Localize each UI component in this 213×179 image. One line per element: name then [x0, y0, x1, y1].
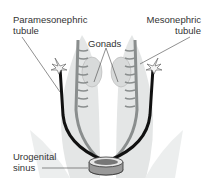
right-fimbriae — [146, 58, 162, 74]
mesonephric-tubule-label: Mesonephric tubule — [147, 14, 201, 36]
gonads-label: Gonads — [88, 38, 121, 49]
paramesonephric-tubule-label: Paramesonephric tubule — [13, 14, 87, 36]
urogenital-sinus-label: Urogenital sinus — [13, 151, 56, 173]
diagram: Paramesonephric tubule Mesonephric tubul… — [0, 0, 213, 179]
left-fimbriae — [51, 58, 67, 74]
